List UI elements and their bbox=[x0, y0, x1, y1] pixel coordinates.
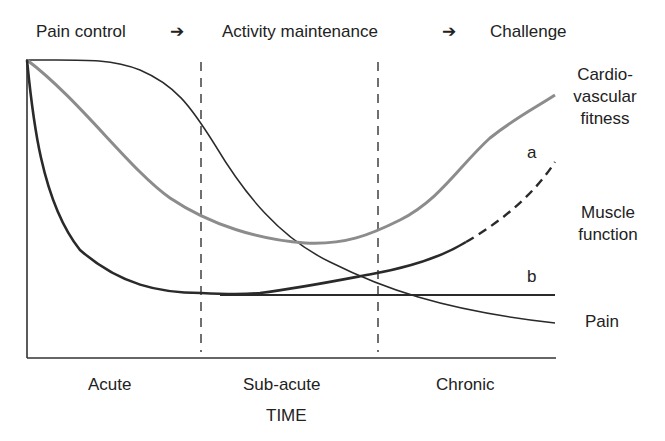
muscle-function-branch-a bbox=[466, 162, 555, 242]
stage-chronic: Chronic bbox=[436, 375, 495, 395]
muscle-function-curve bbox=[27, 60, 466, 294]
cardiovascular-fitness-label: Cardio- vascular fitness bbox=[565, 64, 645, 130]
pain-label: Pain bbox=[585, 312, 619, 332]
stage-sub-acute: Sub-acute bbox=[243, 375, 321, 395]
stage-acute: Acute bbox=[88, 375, 131, 395]
muscle-function-label: Muscle function bbox=[568, 202, 648, 246]
pain-curve bbox=[27, 60, 555, 323]
x-axis-title: TIME bbox=[266, 406, 307, 426]
branch-b-label: b bbox=[527, 267, 536, 287]
branch-a-label: a bbox=[527, 143, 536, 163]
cardiovascular-fitness-curve bbox=[27, 60, 555, 243]
